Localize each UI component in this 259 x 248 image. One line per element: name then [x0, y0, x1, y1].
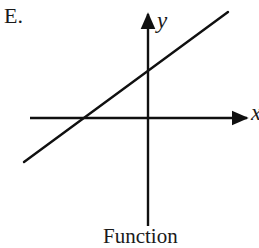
figure-screenshot: E. y x Function [0, 0, 259, 248]
figure-caption: Function [103, 226, 178, 247]
y-axis-label: y [157, 9, 167, 32]
function-line [24, 12, 228, 162]
coordinate-plane-figure [0, 0, 259, 248]
x-axis-label: x [251, 101, 259, 124]
choice-label: E. [4, 5, 23, 27]
